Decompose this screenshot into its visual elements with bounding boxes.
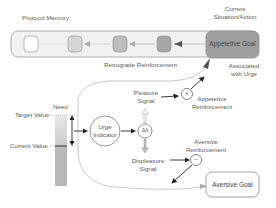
memory-slot-3	[113, 36, 127, 52]
aversive-goal-label: Aversive Goal	[206, 181, 259, 188]
aversive-reinf-line1: Aversive	[182, 138, 230, 145]
current-label-line1: Current	[212, 5, 258, 12]
pleasure-line2: Signal	[130, 97, 162, 104]
appetitive-reinf-line2: Reinforcement	[188, 103, 236, 110]
associated-line2: with Urge	[222, 70, 266, 77]
curve-to-aversive-goal	[115, 187, 200, 189]
appetitive-goal-label: Appetetive Goal	[206, 40, 259, 47]
urge-line2: Indicator	[90, 131, 120, 138]
displeasure-line2: Signal	[128, 165, 168, 172]
protocol-memory-title: Protocol Memory	[22, 14, 69, 21]
minus-to-curve-arrow	[172, 165, 192, 183]
need-title: Need	[53, 103, 68, 110]
delta-symbol: Δ/t	[138, 127, 152, 134]
pleasure-hollow-arrow	[142, 109, 149, 123]
pleasure-to-plus-arrow	[161, 96, 178, 97]
current-value-label: Current Value	[10, 142, 48, 149]
memory-slot-1	[24, 36, 38, 52]
associated-line1: Associated	[222, 62, 266, 69]
need-gauge	[50, 115, 77, 186]
pleasure-line1: Pleasure	[130, 89, 162, 96]
current-label-line2: Situation/Action	[206, 13, 264, 20]
plus-to-goal-arrow	[191, 77, 204, 89]
aversive-reinf-line2: Reinforcement	[182, 146, 230, 153]
target-value-label: Target Value	[15, 111, 49, 118]
retrograde-label: Retrograde Reinforcement	[104, 61, 177, 68]
urge-line1: Urge	[90, 123, 120, 130]
appetitive-reinf-line1: Appetetive	[188, 95, 236, 102]
memory-slot-2	[68, 36, 82, 52]
displeasure-line1: Displeasure	[128, 157, 168, 164]
memory-slot-4	[157, 36, 171, 52]
minus-symbol: −	[192, 156, 200, 163]
displeasure-hollow-arrow	[142, 139, 149, 153]
